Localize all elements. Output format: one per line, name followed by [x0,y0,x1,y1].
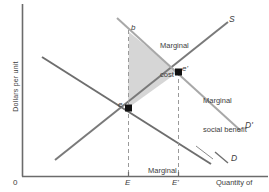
curve-label-D: D [231,153,237,163]
externality-graph-figure: Dollars per unit 0 E E' Quantity of S D … [0,0,269,192]
annotation-marginal-cost-line2: cost [160,70,189,80]
point-label-e: e [118,100,122,109]
origin-label: 0 [13,178,17,187]
curve-label-S: S [229,14,235,24]
annotation-marginal-social-benefit-line1: Marginal [203,96,247,106]
x-axis-label: Quantity of [216,178,252,187]
annotation-marginal-private-benefit-line1: Marginal [148,166,195,176]
y-axis-label: Dollars per unit [12,43,19,131]
x-tick-label-E: E [125,178,130,187]
point-marker-e [125,105,132,112]
annotation-marginal-social-benefit-line2: social benefit [203,125,247,135]
point-label-b: b [131,23,135,32]
annotation-marginal-cost-line1: Marginal [160,41,189,51]
annotation-marginal-private-benefit: Marginal private benefit [148,147,195,192]
annotation-marginal-cost: Marginal cost [160,22,189,98]
annotation-marginal-social-benefit: Marginal social benefit [203,77,247,153]
private-demand-arrow-icon [215,152,228,163]
